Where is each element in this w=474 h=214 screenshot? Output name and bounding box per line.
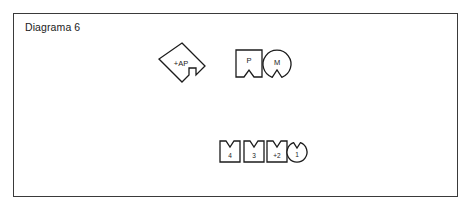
node-ap[interactable]: +AP [159, 43, 205, 82]
node-m[interactable]: M [263, 50, 291, 77]
node-ap-label: +AP [174, 59, 188, 68]
node-m-label: M [274, 58, 280, 67]
node-1[interactable]: 1 [287, 143, 307, 162]
node-p[interactable]: P [236, 50, 262, 77]
node-3-label: 3 [252, 152, 256, 159]
node-4-label: 4 [228, 152, 232, 159]
diagram-canvas: +AP P M 4 3 +2 1 [0, 0, 474, 214]
node-p-label: P [246, 56, 251, 65]
screenshot-root: Diagrama 6 +AP P M 4 3 + [0, 0, 474, 214]
node-3[interactable]: 3 [244, 141, 264, 162]
node-plus2-label: +2 [273, 152, 281, 159]
node-1-label: 1 [295, 151, 299, 158]
node-4[interactable]: 4 [220, 141, 240, 162]
node-plus2[interactable]: +2 [267, 141, 287, 162]
